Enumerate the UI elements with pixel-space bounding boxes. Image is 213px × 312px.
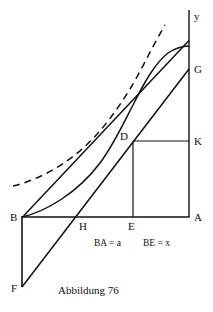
label-point-A: A bbox=[194, 212, 202, 223]
label-point-B: B bbox=[10, 212, 17, 223]
dashed-curve bbox=[13, 25, 165, 186]
annotation-ba-equals-a: BA = a bbox=[94, 238, 121, 248]
geometry-diagram bbox=[0, 0, 213, 312]
annotation-be-equals-x: BE = x bbox=[143, 238, 170, 248]
label-point-F: F bbox=[11, 283, 17, 294]
label-point-G: G bbox=[194, 64, 202, 75]
label-y-axis: y bbox=[194, 11, 200, 22]
figure-container: y G K A D E H B F BA = a BE = x Abbildun… bbox=[0, 0, 213, 312]
label-point-E: E bbox=[128, 221, 135, 232]
figure-caption: Abbildung 76 bbox=[58, 284, 119, 296]
label-point-H: H bbox=[79, 221, 87, 232]
label-point-K: K bbox=[194, 136, 202, 147]
secant-line-BD bbox=[24, 41, 190, 217]
tangent-line-FDG bbox=[22, 69, 189, 287]
label-point-D: D bbox=[120, 131, 128, 142]
